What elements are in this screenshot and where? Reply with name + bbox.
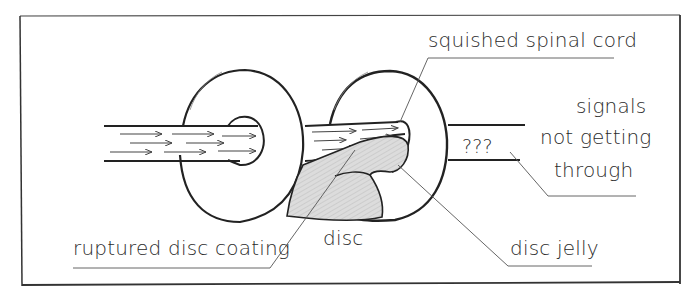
- label-disc-jelly: disc jelly: [510, 238, 599, 258]
- signals-leader: [510, 152, 548, 196]
- label-disc: disc: [323, 228, 363, 248]
- label-signals-line1: signals: [576, 96, 646, 116]
- jelly-leader: [398, 165, 508, 266]
- label-squished-spinal-cord: squished spinal cord: [428, 30, 637, 50]
- herniated-disc-diagram: squished spinal cord signals not getting…: [0, 0, 700, 301]
- label-signals-line2: not getting: [540, 127, 652, 147]
- label-ruptured-disc-coating: ruptured disc coating: [73, 238, 290, 258]
- disc-jelly-bulge: [287, 136, 408, 220]
- left-disc: [180, 70, 303, 222]
- label-signals-line3: through: [554, 160, 633, 180]
- squished-leader: [400, 58, 428, 122]
- label-question-marks: ???: [462, 137, 493, 156]
